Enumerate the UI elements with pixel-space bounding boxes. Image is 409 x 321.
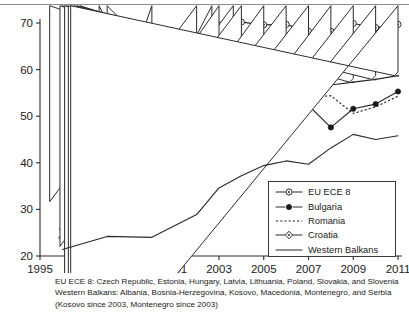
svg-text:1995: 1995 bbox=[27, 263, 53, 273]
svg-text:2005: 2005 bbox=[251, 263, 277, 273]
legend-label: EU ECE 8 bbox=[308, 187, 350, 197]
legend-item-eu-ece-8: EU ECE 8 bbox=[269, 185, 395, 199]
legend-swatch-none-icon bbox=[274, 215, 304, 227]
y-axis: 203040506070 bbox=[20, 17, 40, 262]
footnote-line-2: Western Balkans: Albania, Bosnia-Herzego… bbox=[55, 287, 409, 298]
legend-swatch-none-icon bbox=[274, 244, 304, 256]
svg-text:2003: 2003 bbox=[206, 263, 232, 273]
footnote-line-1: EU ECE 8: Czech Republic, Estonia, Hunga… bbox=[55, 276, 409, 287]
svg-text:2011: 2011 bbox=[386, 263, 409, 273]
svg-text:2009: 2009 bbox=[340, 263, 366, 273]
legend-item-western-balkans: Western Balkans bbox=[269, 243, 395, 257]
svg-text:50: 50 bbox=[20, 110, 33, 122]
svg-text:40: 40 bbox=[20, 157, 33, 169]
footnote-block: EU ECE 8: Czech Republic, Estonia, Hunga… bbox=[0, 275, 409, 310]
svg-text:20: 20 bbox=[20, 250, 33, 262]
legend-label: Romania bbox=[308, 216, 345, 226]
svg-text:70: 70 bbox=[20, 17, 33, 29]
legend-swatch-circle-dot-icon bbox=[274, 186, 304, 198]
footnote-line-3: (Kosovo since 2003, Montenegro since 200… bbox=[55, 299, 409, 310]
legend-label: Bulgaria bbox=[308, 202, 342, 212]
legend-item-croatia: Croatia bbox=[269, 228, 395, 242]
legend-label: Croatia bbox=[308, 230, 338, 240]
svg-text:60: 60 bbox=[20, 64, 33, 76]
chart-legend: EU ECE 8BulgariaRomaniaCroatiaWestern Ba… bbox=[268, 181, 396, 257]
legend-label: Western Balkans bbox=[308, 245, 378, 255]
legend-swatch-filled-circle-icon bbox=[274, 201, 304, 213]
svg-text:30: 30 bbox=[20, 203, 33, 215]
legend-swatch-diamond-icon bbox=[274, 229, 304, 241]
legend-item-bulgaria: Bulgaria bbox=[269, 199, 395, 213]
legend-item-romania: Romania bbox=[269, 214, 395, 228]
svg-text:2007: 2007 bbox=[296, 263, 322, 273]
line-chart-figure: 203040506070 199519971999200120032005200… bbox=[0, 5, 409, 321]
